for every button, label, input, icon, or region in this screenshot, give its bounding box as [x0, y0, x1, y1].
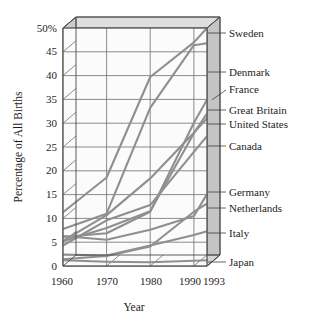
y-tick-label: 45 [46, 45, 58, 57]
series-label-germany: Germany [229, 186, 270, 198]
y-axis-title: Percentage of All Births [12, 91, 25, 202]
x-axis-tick-labels: 1960 1970 1980 1990 1993 [51, 275, 226, 287]
series-label-japan: Japan [229, 256, 255, 268]
y-tick-label: 15 [46, 188, 58, 200]
y-tick-label: 0 [52, 260, 58, 272]
series-label-france: France [229, 83, 259, 95]
y-tick-label: 50% [37, 22, 57, 34]
y-tick-label: 40 [46, 69, 58, 81]
series-label-netherlands: Netherlands [229, 202, 282, 214]
y-tick-label: 30 [46, 117, 58, 129]
y-tick-label: 35 [46, 93, 58, 105]
y-tick-label: 20 [46, 164, 58, 176]
x-tick-label: 1990 [179, 275, 202, 287]
plot-box-right-face [207, 17, 220, 266]
x-axis-title: Year [123, 301, 144, 313]
x-tick-label: 1993 [203, 275, 226, 287]
series-labels-group: Sweden Denmark France Great Britain Unit… [229, 27, 288, 268]
series-label-canada: Canada [229, 140, 262, 152]
y-tick-label: 5 [52, 236, 58, 248]
y-tick-label: 25 [46, 141, 58, 153]
series-label-great-britain: Great Britain [229, 104, 287, 116]
y-tick-label: 10 [46, 212, 58, 224]
plot-box-top-face [63, 17, 220, 28]
line-chart: 50% 45 40 35 30 25 20 15 10 5 0 1960 197… [0, 0, 310, 326]
series-label-denmark: Denmark [229, 66, 270, 78]
series-label-italy: Italy [229, 227, 250, 239]
chart-container: 50% 45 40 35 30 25 20 15 10 5 0 1960 197… [0, 0, 310, 326]
x-tick-label: 1980 [140, 275, 163, 287]
series-label-sweden: Sweden [229, 27, 264, 39]
series-label-united-states: United States [229, 118, 288, 130]
x-tick-label: 1960 [51, 275, 74, 287]
y-axis-tick-labels: 50% 45 40 35 30 25 20 15 10 5 0 [37, 22, 58, 272]
x-tick-label: 1970 [96, 275, 119, 287]
